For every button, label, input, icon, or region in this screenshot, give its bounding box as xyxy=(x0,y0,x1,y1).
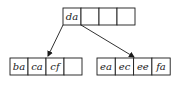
edge-root-to-left-child xyxy=(48,25,63,56)
left-key-1: ca xyxy=(31,61,43,72)
edge-root-to-right-child xyxy=(81,25,134,57)
right-key-0: ea xyxy=(100,61,112,72)
root-key-0: da xyxy=(66,11,78,22)
root-node: da xyxy=(63,8,135,25)
left-child-node: ba ca cf xyxy=(10,58,82,75)
right-key-1: ec xyxy=(119,61,131,72)
root-key-cell-3 xyxy=(117,8,135,25)
right-key-3: fa xyxy=(155,61,166,72)
b-tree-diagram: da ba ca cf ea ec ee fa xyxy=(0,0,178,85)
right-child-node: ea ec ee fa xyxy=(97,58,170,75)
left-key-0: ba xyxy=(13,61,25,72)
left-key-cell-3 xyxy=(64,58,82,75)
right-key-2: ee xyxy=(137,61,149,72)
root-key-cell-1 xyxy=(81,8,99,25)
root-key-cell-2 xyxy=(99,8,117,25)
